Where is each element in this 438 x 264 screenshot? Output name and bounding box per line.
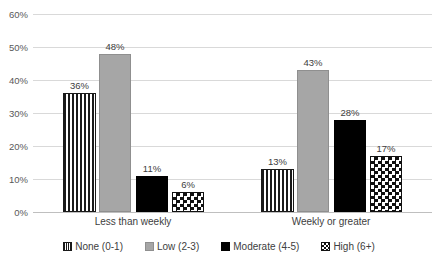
bar-less-than-weekly-low[interactable]: 48% xyxy=(99,54,131,212)
legend-label: Low (2-3) xyxy=(157,241,199,252)
bar-less-than-weekly-high[interactable]: 6% xyxy=(172,192,204,212)
bar-less-than-weekly-moderate[interactable]: 11% xyxy=(136,176,168,212)
chart-title-cropped xyxy=(0,0,438,3)
legend-item-high[interactable]: High (6+) xyxy=(321,241,374,252)
legend-label: High (6+) xyxy=(333,241,374,252)
bar-weekly-or-greater-low[interactable]: 43% xyxy=(297,70,329,212)
legend-label: None (0-1) xyxy=(75,241,123,252)
y-axis-tick-30: 30% xyxy=(0,108,28,119)
legend-swatch-checker-icon xyxy=(321,242,330,251)
y-axis-tick-50: 50% xyxy=(0,42,28,53)
legend-item-low[interactable]: Low (2-3) xyxy=(145,241,199,252)
bar-chart: 60% 50% 40% 30% 20% 10% 0% 36% 48% 11% 6… xyxy=(0,0,438,264)
legend-swatch-gray-icon xyxy=(145,242,154,251)
chart-legend: None (0-1) Low (2-3) Moderate (4-5) High… xyxy=(0,241,438,252)
bar-value-label: 17% xyxy=(376,143,395,154)
legend-label: Moderate (4-5) xyxy=(233,241,299,252)
x-axis-category-weekly-or-greater: Weekly or greater xyxy=(292,216,371,227)
bar-value-label: 48% xyxy=(105,41,124,52)
gridline-60 xyxy=(33,14,432,15)
y-axis-tick-60: 60% xyxy=(0,9,28,20)
y-axis-tick-40: 40% xyxy=(0,75,28,86)
y-axis-tick-20: 20% xyxy=(0,141,28,152)
bar-value-label: 43% xyxy=(303,57,322,68)
bar-value-label: 6% xyxy=(181,179,195,190)
legend-swatch-stripes-icon xyxy=(63,242,72,251)
y-axis-tick-0: 0% xyxy=(0,207,28,218)
legend-item-none[interactable]: None (0-1) xyxy=(63,241,123,252)
bar-weekly-or-greater-moderate[interactable]: 28% xyxy=(334,120,366,212)
y-axis-tick-10: 10% xyxy=(0,174,28,185)
bar-value-label: 13% xyxy=(268,156,287,167)
legend-swatch-black-icon xyxy=(221,242,230,251)
bar-value-label: 36% xyxy=(70,80,89,91)
axis-baseline xyxy=(33,212,432,213)
bar-weekly-or-greater-none[interactable]: 13% xyxy=(261,169,294,212)
gridline-40 xyxy=(33,80,432,81)
legend-item-moderate[interactable]: Moderate (4-5) xyxy=(221,241,299,252)
bar-weekly-or-greater-high[interactable]: 17% xyxy=(370,156,402,212)
bar-less-than-weekly-none[interactable]: 36% xyxy=(63,93,96,212)
gridline-50 xyxy=(33,47,432,48)
bar-value-label: 28% xyxy=(340,107,359,118)
plot-area: 36% 48% 11% 6% 13% 43% 28% 17% xyxy=(33,14,432,212)
bar-value-label: 11% xyxy=(143,163,161,174)
x-axis-category-less-than-weekly: Less than weekly xyxy=(95,216,172,227)
